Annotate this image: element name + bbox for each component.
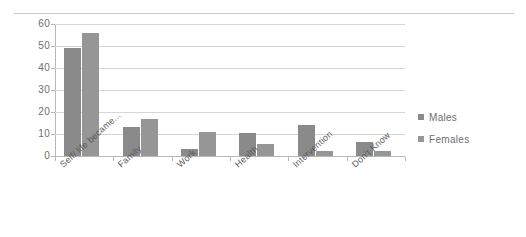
- y-tick-mark: [51, 112, 55, 113]
- y-tick-mark: [51, 68, 55, 69]
- y-tick-mark: [51, 24, 55, 25]
- x-tick-mark: [172, 157, 173, 161]
- x-tick-mark: [230, 157, 231, 161]
- legend-label: Males: [429, 112, 457, 123]
- chart-legend: MalesFemales: [418, 108, 518, 152]
- y-tick-mark: [51, 156, 55, 157]
- x-axis-label: Health: [233, 144, 260, 170]
- legend-swatch-icon: [418, 136, 424, 142]
- legend-swatch-icon: [418, 114, 424, 120]
- y-tick-mark: [51, 90, 55, 91]
- x-axis-label: Work: [175, 148, 198, 170]
- y-tick-mark: [51, 134, 55, 135]
- x-tick-mark: [55, 157, 56, 161]
- legend-item-males[interactable]: Males: [418, 108, 518, 126]
- x-tick-mark: [288, 157, 289, 161]
- x-axis-label: Intervention: [291, 129, 334, 170]
- legend-label: Females: [429, 134, 469, 145]
- x-axis-label: Don't Know: [350, 130, 392, 169]
- legend-item-females[interactable]: Females: [418, 130, 518, 148]
- x-tick-mark: [113, 157, 114, 161]
- x-tick-mark: [405, 157, 406, 161]
- y-tick-mark: [51, 46, 55, 47]
- x-tick-mark: [347, 157, 348, 161]
- x-axis-label: Family: [116, 143, 143, 169]
- bar-chart-figure: 0102030405060 Self/ life became...Family…: [0, 0, 526, 237]
